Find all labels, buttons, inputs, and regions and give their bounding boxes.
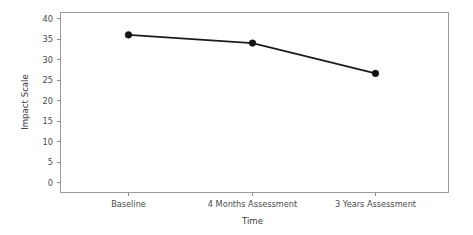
y-tick-label: 0 bbox=[48, 178, 53, 188]
data-point-4-months-assessment bbox=[249, 40, 256, 47]
y-axis-ticks bbox=[57, 19, 61, 183]
chart-figure: 40 35 30 25 20 15 10 5 0 Impact Scale Ba… bbox=[0, 0, 473, 235]
y-tick-label: 35 bbox=[43, 34, 53, 44]
y-tick-label: 5 bbox=[48, 157, 53, 167]
y-tick-label: 30 bbox=[43, 55, 53, 65]
y-tick-label: 20 bbox=[43, 96, 53, 106]
x-axis-tick-labels: Baseline 4 Months Assessment 3 Years Ass… bbox=[111, 199, 417, 209]
y-axis-tick-labels: 40 35 30 25 20 15 10 5 0 bbox=[43, 14, 53, 188]
x-tick-label: 3 Years Assessment bbox=[335, 199, 417, 209]
x-axis-ticks bbox=[129, 193, 376, 197]
data-point-baseline bbox=[125, 32, 132, 39]
y-tick-label: 15 bbox=[43, 116, 53, 126]
y-tick-label: 10 bbox=[43, 137, 53, 147]
x-tick-label: 4 Months Assessment bbox=[208, 199, 298, 209]
x-axis-title: Time bbox=[241, 216, 263, 226]
line-chart: 40 35 30 25 20 15 10 5 0 Impact Scale Ba… bbox=[0, 0, 473, 235]
x-tick-label: Baseline bbox=[111, 199, 146, 209]
data-point-3-years-assessment bbox=[372, 70, 379, 77]
y-axis-title: Impact Scale bbox=[20, 74, 30, 130]
y-tick-label: 40 bbox=[43, 14, 53, 24]
series-markers bbox=[125, 32, 379, 77]
plot-frame bbox=[61, 13, 449, 193]
y-tick-label: 25 bbox=[43, 75, 53, 85]
